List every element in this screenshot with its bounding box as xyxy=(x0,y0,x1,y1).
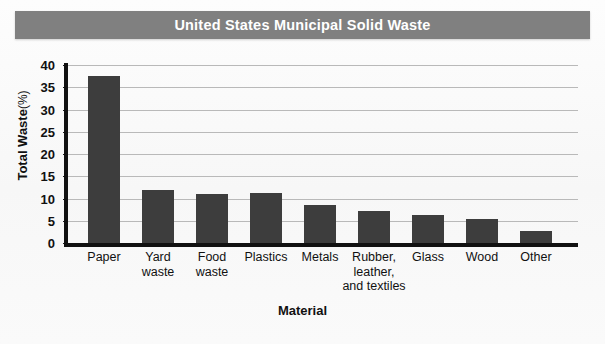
y-tick-label-40: 40 xyxy=(41,58,55,73)
chart-title-band: United States Municipal Solid Waste xyxy=(15,11,590,39)
bar-wood xyxy=(466,219,498,243)
bar-glass xyxy=(412,215,444,243)
gridline-40 xyxy=(68,65,578,66)
y-tick-label-20: 20 xyxy=(41,147,55,162)
gridline-35 xyxy=(68,87,578,88)
y-tick-label-25: 25 xyxy=(41,124,55,139)
y-tick-label-35: 35 xyxy=(41,80,55,95)
bar-other xyxy=(520,231,552,243)
y-axis-title-main: Total Waste xyxy=(15,109,30,181)
x-axis-tick-labels: PaperYardwasteFoodwastePlasticsMetalsRub… xyxy=(68,250,578,300)
chart-title: United States Municipal Solid Waste xyxy=(174,17,430,33)
y-axis-title-unit: (%) xyxy=(16,90,30,109)
gridline-25 xyxy=(68,132,578,133)
x-axis-title: Material xyxy=(0,303,605,318)
bar-food-waste xyxy=(196,194,228,243)
y-tick-label-30: 30 xyxy=(41,102,55,117)
y-tick-label-15: 15 xyxy=(41,169,55,184)
bar-yard-waste xyxy=(142,190,174,243)
plot-area xyxy=(68,65,578,243)
x-tick-label-line: waste xyxy=(176,265,248,280)
y-axis-tick-labels: 0510152025303540 xyxy=(0,0,62,344)
bar-plastics xyxy=(250,193,282,243)
gridline-20 xyxy=(68,154,578,155)
y-axis-line xyxy=(64,63,68,245)
gridline-15 xyxy=(68,176,578,177)
bar-metals xyxy=(304,205,336,243)
x-tick-label-line: Other xyxy=(500,250,572,265)
x-tick-label-line: leather, xyxy=(338,265,410,280)
bar-paper xyxy=(88,76,120,243)
y-tick-label-10: 10 xyxy=(41,191,55,206)
x-tick-label-other: Other xyxy=(500,250,572,265)
bar-rubber-leather-and-textiles xyxy=(358,211,390,243)
chart-figure: United States Municipal Solid Waste 0510… xyxy=(0,0,605,344)
y-tick-label-5: 5 xyxy=(48,213,55,228)
y-axis-title: Total Waste(%) xyxy=(15,71,30,201)
x-tick-label-line: and textiles xyxy=(338,279,410,294)
y-tick-label-0: 0 xyxy=(48,236,55,251)
gridline-30 xyxy=(68,110,578,111)
x-axis-line xyxy=(64,243,578,247)
